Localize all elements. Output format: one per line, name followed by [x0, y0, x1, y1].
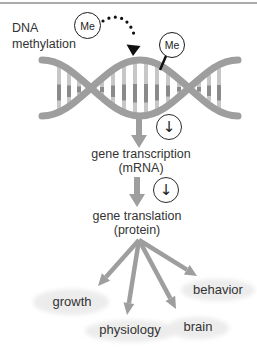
downregulation-arrow-2 — [129, 177, 145, 207]
gene-translation-label: gene translation — [26, 209, 248, 223]
base-pair-rungs — [59, 64, 219, 113]
decrease-circle-1: ↓ — [156, 114, 182, 140]
methyl-group-badge-1: Me — [74, 12, 101, 39]
gene-translation-step: gene translation (protein) — [26, 209, 248, 237]
mrna-sublabel: (mRNA) — [34, 161, 248, 175]
dna-methylation-label-line1: DNA — [12, 20, 76, 36]
protein-sublabel: (protein) — [26, 223, 248, 237]
gene-transcription-label: gene transcription — [34, 147, 248, 161]
outcome-physiology-label: physiology — [84, 322, 176, 337]
gene-transcription-step: gene transcription (mRNA) — [34, 147, 248, 175]
decrease-arrow-icon: ↓ — [160, 183, 173, 198]
outcome-brain-label: brain — [168, 319, 228, 334]
dna-helix-graphic — [42, 60, 238, 116]
methyl-group-label-1: Me — [80, 20, 95, 32]
decrease-circle-2: ↓ — [153, 177, 179, 203]
outcome-behavior-label: behavior — [183, 282, 253, 297]
dna-methylation-figure: DNA methylation Me Me ↓ ↓ gene transcrip… — [0, 0, 257, 348]
dna-methylation-label-line2: methylation — [12, 36, 76, 52]
methyl-group-label-2: Me — [165, 39, 180, 51]
methyl-group-badge-2: Me — [159, 32, 185, 58]
methyl-dotted-arrowhead — [127, 45, 141, 57]
dna-methylation-label: DNA methylation — [12, 20, 76, 52]
decrease-arrow-icon: ↓ — [163, 120, 176, 135]
outcome-growth-label: growth — [32, 294, 112, 309]
methyl-dotted-arrow — [103, 17, 135, 38]
